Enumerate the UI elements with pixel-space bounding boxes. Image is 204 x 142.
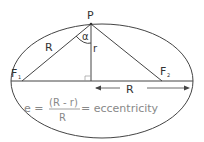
ellipse-diagram: P α R r F 1 F 2 R e = (R - r) R = eccent…: [0, 0, 204, 142]
formula-denominator: R: [59, 112, 66, 123]
arrow-left-head: [95, 86, 101, 91]
label-f1: F: [11, 67, 17, 80]
label-f2: F: [160, 65, 166, 78]
label-p: P: [87, 9, 94, 22]
line-f1-p: [22, 24, 91, 81]
label-alpha: α: [82, 31, 89, 42]
right-angle-mark: [85, 76, 91, 81]
point-p: [90, 23, 93, 26]
label-height-r: r: [93, 43, 98, 54]
label-f1-sub: 1: [18, 74, 21, 80]
arrow-right-head: [184, 86, 190, 91]
label-f2-sub: 2: [167, 72, 170, 78]
formula-numerator: (R - r): [49, 97, 78, 108]
formula-lhs: e =: [24, 102, 43, 115]
label-semi-axis-r: R: [126, 83, 134, 96]
formula-rhs: = eccentricity: [81, 102, 159, 115]
label-side-r: R: [45, 41, 53, 54]
